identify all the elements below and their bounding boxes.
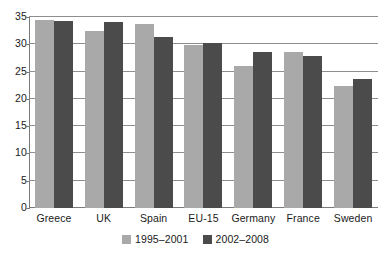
legend-entry-1: 2002–2008 (203, 233, 269, 245)
y-tick-label-5: 5 (21, 175, 27, 186)
bar-france-series-0 (284, 52, 303, 208)
bar-group-spain (129, 17, 179, 208)
x-tick-label-france: France (278, 212, 328, 224)
bar-greece-series-0 (35, 20, 54, 208)
bar-spain-series-1 (154, 37, 173, 208)
bar-france-series-1 (303, 56, 322, 208)
bar-eu-15-series-1 (203, 43, 222, 208)
legend-entry-0: 1995–2001 (122, 233, 188, 245)
bar-group-france (278, 17, 328, 208)
bar-uk-series-0 (85, 31, 104, 208)
bar-spain-series-0 (135, 24, 154, 208)
chart-legend: 1995–20012002–2008 (0, 233, 391, 245)
legend-swatch-dark (203, 235, 212, 244)
bar-germany-series-1 (253, 52, 272, 208)
plot-area (29, 17, 378, 208)
bar-eu-15-series-0 (184, 45, 203, 208)
y-tick-mark-0 (25, 208, 29, 209)
bar-group-greece (29, 17, 79, 208)
legend-swatch-light (122, 235, 131, 244)
x-tick-label-sweden: Sweden (328, 212, 378, 224)
x-tick-label-uk: UK (79, 212, 129, 224)
bar-greece-series-1 (54, 21, 73, 208)
x-tick-label-greece: Greece (29, 212, 79, 224)
y-tick-label-25: 25 (15, 66, 27, 77)
bar-group-uk (79, 17, 129, 208)
x-tick-label-spain: Spain (129, 212, 179, 224)
legend-label-1: 2002–2008 (216, 233, 269, 245)
bar-chart: 05101520253035 GreeceUKSpainEU-15Germany… (0, 0, 391, 258)
bar-group-eu-15 (179, 17, 229, 208)
bar-sweden-series-1 (353, 79, 372, 208)
x-tick-label-germany: Germany (228, 212, 278, 224)
bar-germany-series-0 (234, 66, 253, 208)
bar-sweden-series-0 (334, 86, 353, 208)
legend-label-0: 1995–2001 (135, 233, 188, 245)
bar-group-sweden (328, 17, 378, 208)
bar-uk-series-1 (104, 22, 123, 208)
bar-group-germany (228, 17, 278, 208)
x-tick-label-eu-15: EU-15 (179, 212, 229, 224)
